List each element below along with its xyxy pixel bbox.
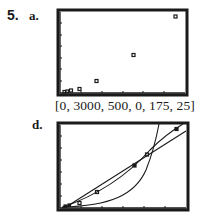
plot-d (0, 0, 212, 215)
